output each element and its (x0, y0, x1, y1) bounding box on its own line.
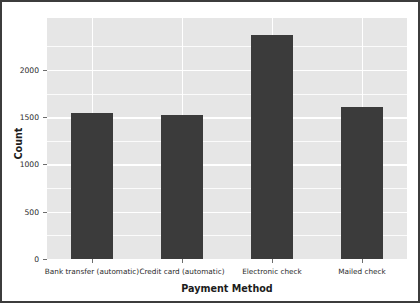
x-axis-title: Payment Method (47, 283, 407, 294)
y-tick-label: 500 (5, 207, 39, 216)
y-tick-mark (43, 259, 47, 260)
x-tick-label: Bank transfer (automatic) (45, 267, 139, 276)
figure-canvas: 0500100015002000Bank transfer (automatic… (2, 2, 418, 301)
gridline-horizontal-minor (47, 94, 407, 95)
x-tick-label: Electronic check (242, 267, 302, 276)
y-tick-mark (43, 212, 47, 213)
y-tick-label: 0 (5, 255, 39, 264)
bar (341, 107, 383, 259)
y-tick-mark (43, 164, 47, 165)
gridline-horizontal-minor (47, 46, 407, 47)
x-tick-mark (362, 259, 363, 263)
x-tick-mark (92, 259, 93, 263)
chart-screenshot: 0500100015002000Bank transfer (automatic… (0, 0, 420, 303)
y-tick-mark (43, 117, 47, 118)
x-tick-mark (182, 259, 183, 263)
x-tick-label: Credit card (automatic) (139, 267, 224, 276)
y-tick-label: 2000 (5, 65, 39, 74)
gridline-horizontal-major (47, 70, 407, 71)
x-tick-mark (272, 259, 273, 263)
y-axis-title: Count (13, 84, 24, 204)
y-tick-mark (43, 70, 47, 71)
bar (251, 35, 293, 259)
bar (161, 115, 203, 259)
bar (71, 113, 113, 259)
x-tick-label: Mailed check (338, 267, 386, 276)
plot-area (47, 18, 407, 259)
